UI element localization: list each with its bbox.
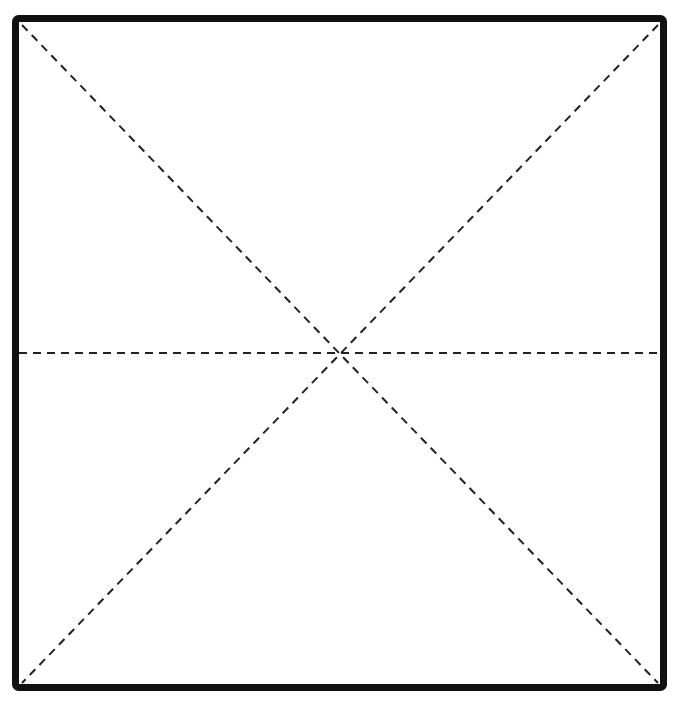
square-fold-diagram: [0, 0, 677, 703]
